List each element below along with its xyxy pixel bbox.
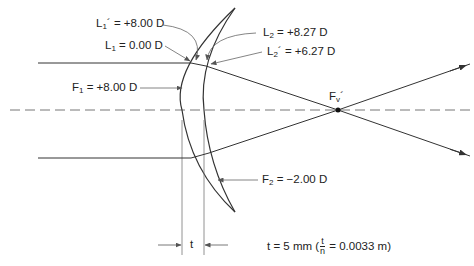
leader-L2-prime bbox=[211, 52, 262, 64]
label-L2-prime: L2´ = +6.27 D bbox=[267, 46, 335, 59]
label-F2: F2 = −2.00 D bbox=[262, 174, 327, 187]
label-F1: F1 = +8.00 D bbox=[72, 82, 137, 95]
label-Fv-prime: Fv´ bbox=[329, 91, 344, 104]
label-thickness: t = 5 mm (tn = 0.0033 m) bbox=[267, 237, 391, 256]
ray-bottom bbox=[38, 64, 470, 158]
fraction-t-over-n: tn bbox=[320, 237, 325, 256]
label-L1: L1 = 0.00 D bbox=[105, 40, 163, 53]
thick-lens-diagram bbox=[0, 0, 474, 266]
label-t: t bbox=[190, 239, 193, 251]
leader-L2 bbox=[207, 33, 256, 60]
label-L1-prime: L1´ = +8.00 D bbox=[96, 18, 164, 31]
ray-top-arrowhead bbox=[450, 149, 466, 154]
ray-bottom-arrowhead bbox=[450, 65, 466, 71]
leader-L1 bbox=[165, 46, 190, 61]
focal-point-dot bbox=[336, 108, 341, 113]
label-L2: L2 = +8.27 D bbox=[263, 27, 328, 40]
